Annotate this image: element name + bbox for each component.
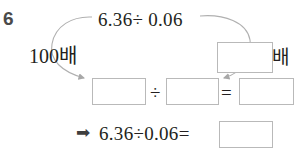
top-expression: 6.36÷ 0.06 (98, 10, 183, 29)
middle-divisor-box[interactable] (166, 78, 219, 105)
middle-dividend-box[interactable] (92, 78, 146, 105)
equals-symbol: = (221, 83, 232, 102)
times-unit-label: 배 (272, 48, 289, 67)
bottom-expression: 6.36÷0.06= (99, 124, 190, 143)
hundred-times-label: 100배 (29, 46, 77, 66)
middle-quotient-box[interactable] (239, 78, 294, 105)
division-symbol: ÷ (150, 83, 160, 102)
multiplier-answer-box[interactable] (217, 42, 273, 73)
worksheet-problem: 6 6.36÷ 0.06 100배 배 ÷ = ➡ 6.36÷0.06= (0, 0, 297, 155)
question-number: 6 (3, 9, 14, 28)
final-answer-box[interactable] (219, 121, 273, 148)
result-arrow-icon: ➡ (76, 124, 90, 141)
